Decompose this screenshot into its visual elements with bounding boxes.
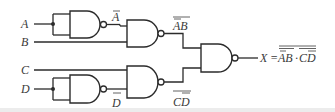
label-output-x: X [259, 51, 268, 65]
inverter-bubble-4 [158, 79, 164, 85]
wire-g2-to-g5 [164, 34, 201, 49]
label-expr-ab: AB [277, 51, 293, 65]
nand-gate-3 [70, 75, 100, 103]
nand-gate-5 [201, 44, 232, 72]
label-input-b: B [21, 35, 29, 49]
label-cd-bar: CD [173, 95, 190, 109]
wire-g4-to-g5 [164, 68, 201, 82]
label-expr-cd: CD [299, 51, 316, 65]
label-input-a: A [20, 17, 29, 31]
inverter-bubble-3 [101, 86, 107, 92]
logic-circuit: A B C D A AB D CD X = AB · CD [0, 0, 335, 112]
label-input-c: C [21, 63, 30, 77]
label-input-d: D [20, 82, 30, 96]
label-a-bar: A [111, 10, 120, 24]
nand-gate-4 [127, 66, 158, 98]
junction-dot-a [51, 22, 55, 26]
bottom-border [0, 108, 335, 112]
inverter-bubble-2 [158, 31, 164, 37]
inverter-bubble-1 [101, 22, 107, 28]
label-ab-bar: AB [172, 19, 188, 33]
inverter-bubble-5 [232, 55, 238, 61]
junction-dot-d [51, 87, 55, 91]
nand-gate-1 [70, 11, 100, 38]
nand-gate-2 [127, 20, 158, 47]
label-equals: = [270, 51, 278, 65]
label-expr-dot: · [295, 51, 298, 65]
